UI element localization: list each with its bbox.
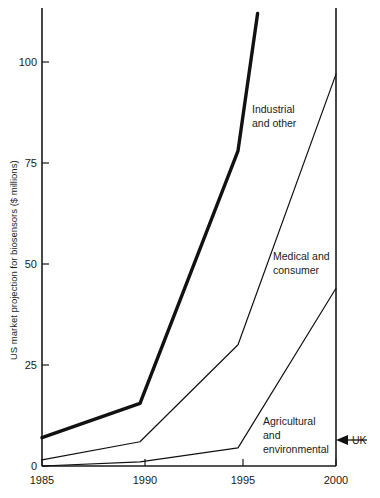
series-line-agricultural-and-environmental	[42, 288, 336, 466]
series-line-industrial-and-other	[42, 14, 258, 438]
uk-annotation-label: UK	[352, 434, 367, 446]
series-label-agricultural-line3: environmental	[263, 443, 329, 455]
series-paths	[42, 14, 336, 466]
series-label-agricultural-and-environmental: Agricultural and environmental	[263, 415, 329, 455]
y-tick-label-25: 25	[25, 359, 37, 371]
series-label-medical-and-consumer: Medical and consumer	[273, 250, 330, 276]
series-label-industrial-line1: Industrial	[252, 103, 295, 115]
y-tick-label-75: 75	[25, 157, 37, 169]
y-tick-labels: 0 25 50 75 100	[19, 56, 37, 472]
series-label-industrial-and-other: Industrial and other	[252, 103, 297, 129]
chart-figure: 0 25 50 75 100 1985 1990 1995 2000 US ma…	[0, 0, 380, 498]
y-axis-title: US market projection for biosensors ($ m…	[8, 160, 19, 360]
x-tick-marks	[42, 459, 336, 466]
series-label-agricultural-line2: and	[263, 429, 281, 441]
uk-annotation: UK	[336, 434, 367, 446]
y-tick-label-0: 0	[31, 460, 37, 472]
x-tick-label-1985: 1985	[30, 474, 54, 486]
x-tick-label-1995: 1995	[231, 474, 255, 486]
y-tick-marks	[42, 62, 49, 466]
uk-arrow-head-icon	[336, 435, 348, 445]
line-chart: 0 25 50 75 100 1985 1990 1995 2000 US ma…	[0, 0, 380, 498]
series-label-industrial-line2: and other	[252, 117, 297, 129]
y-tick-label-50: 50	[25, 258, 37, 270]
x-tick-labels: 1985 1990 1995 2000	[30, 474, 348, 486]
x-tick-label-1990: 1990	[133, 474, 157, 486]
series-label-medical-line2: consumer	[273, 264, 320, 276]
series-label-medical-line1: Medical and	[273, 250, 330, 262]
series-label-agricultural-line1: Agricultural	[263, 415, 316, 427]
y-tick-label-100: 100	[19, 56, 37, 68]
x-tick-label-2000: 2000	[324, 474, 348, 486]
